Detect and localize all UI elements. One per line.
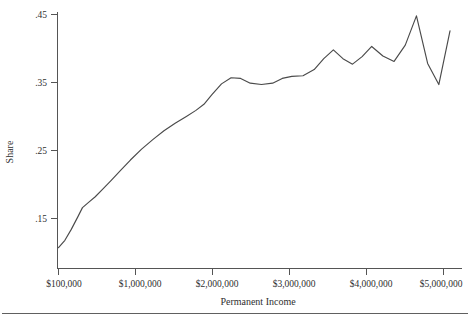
chart-figure: .45 .35 .25 .15 $100,000 $1,000,000 $2,0… [0, 0, 470, 319]
share-vs-income-line-chart: .45 .35 .25 .15 $100,000 $1,000,000 $2,0… [0, 0, 470, 319]
x-tick-label: $4,000,000 [350, 279, 393, 289]
x-axis-tick-labels: $100,000 $1,000,000 $2,000,000 $3,000,00… [46, 279, 462, 289]
y-tick-label: .35 [35, 78, 47, 88]
x-tick-label: $3,000,000 [273, 279, 316, 289]
y-tick-label: .45 [35, 10, 47, 20]
x-axis-title: Permanent Income [220, 296, 296, 307]
data-series-line [59, 16, 451, 248]
x-tick-label: $2,000,000 [196, 279, 239, 289]
x-tick-label: $5,000,000 [420, 279, 463, 289]
x-axis-ticks [59, 269, 444, 276]
x-tick-label: $100,000 [46, 279, 82, 289]
y-axis-title: Share [4, 140, 15, 163]
y-axis-ticks [51, 15, 58, 219]
y-tick-label: .15 [35, 214, 47, 224]
x-tick-label: $1,000,000 [119, 279, 162, 289]
y-axis-tick-labels: .45 .35 .25 .15 [35, 10, 47, 224]
y-tick-label: .25 [35, 146, 47, 156]
